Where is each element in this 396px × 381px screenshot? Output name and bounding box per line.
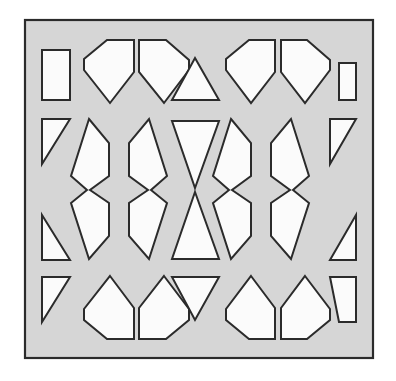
cutout-r1c7-right-half-triangle — [339, 63, 356, 100]
cutout-r1c1-left-half-triangle — [42, 50, 70, 100]
screenshot-canvas: Geometric Perforated Screen Panel — [0, 0, 396, 381]
perforated-panel-figure — [0, 0, 396, 381]
